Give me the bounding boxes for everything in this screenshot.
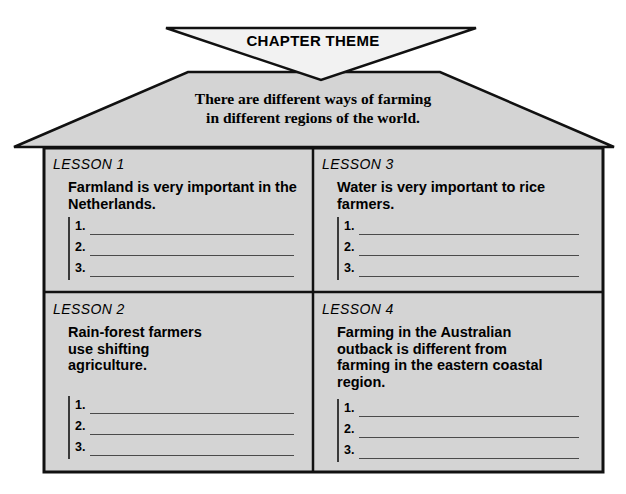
answer-line-row[interactable]: 1.	[339, 399, 579, 420]
answer-number: 2.	[344, 240, 354, 254]
lesson-panel-1: LESSON 1 Farmland is very important in t…	[44, 148, 312, 292]
answer-number: 1.	[344, 401, 354, 415]
answer-number: 1.	[344, 219, 354, 233]
answer-rule[interactable]	[90, 255, 294, 256]
answer-line-row[interactable]: 1.	[70, 396, 294, 417]
answer-line-row[interactable]: 3.	[70, 259, 294, 280]
answer-line-row[interactable]: 3.	[339, 259, 579, 280]
answer-number: 2.	[344, 422, 354, 436]
answer-line-row[interactable]: 1.	[70, 217, 294, 238]
answer-rule[interactable]	[90, 234, 294, 235]
lesson-answer-lines-1: 1. 2. 3.	[68, 217, 294, 280]
answer-number: 3.	[75, 440, 85, 454]
answer-line-row[interactable]: 2.	[70, 238, 294, 259]
lesson-title-1: Farmland is very important in the Nether…	[44, 172, 312, 212]
answer-line-row[interactable]: 1.	[339, 217, 579, 238]
answer-number: 3.	[344, 443, 354, 457]
lesson-label-3: LESSON 3	[313, 148, 603, 172]
theme-line-1: There are different ways of farming	[0, 89, 626, 108]
answer-number: 2.	[75, 240, 85, 254]
answer-line-row[interactable]: 2.	[339, 420, 579, 441]
answer-number: 1.	[75, 219, 85, 233]
lesson-panel-4: LESSON 4 Farming in the Australian outba…	[313, 293, 603, 472]
answer-rule[interactable]	[359, 416, 579, 417]
lesson-title-2: Rain-forest farmers use shifting agricul…	[44, 317, 238, 374]
lesson-panel-3: LESSON 3 Water is very important to rice…	[313, 148, 603, 292]
answer-rule[interactable]	[359, 437, 579, 438]
chapter-theme-graphic-organizer: CHAPTER THEME There are different ways o…	[0, 0, 626, 494]
answer-rule[interactable]	[359, 234, 579, 235]
answer-rule[interactable]	[359, 458, 579, 459]
lesson-label-4: LESSON 4	[313, 293, 603, 317]
lesson-title-3: Water is very important to rice farmers.	[313, 172, 603, 212]
banner-title: CHAPTER THEME	[0, 32, 626, 49]
answer-rule[interactable]	[359, 276, 579, 277]
lesson-label-1: LESSON 1	[44, 148, 312, 172]
answer-number: 2.	[75, 419, 85, 433]
answer-rule[interactable]	[359, 255, 579, 256]
answer-line-row[interactable]: 2.	[70, 417, 294, 438]
lesson-answer-lines-4: 1. 2. 3.	[337, 399, 579, 462]
answer-line-row[interactable]: 2.	[339, 238, 579, 259]
lesson-answer-lines-2: 1. 2. 3.	[68, 396, 294, 459]
lesson-panel-2: LESSON 2 Rain-forest farmers use shiftin…	[44, 293, 312, 472]
lesson-answer-lines-3: 1. 2. 3.	[337, 217, 579, 280]
answer-rule[interactable]	[90, 455, 294, 456]
answer-line-row[interactable]: 3.	[70, 438, 294, 459]
answer-line-row[interactable]: 3.	[339, 441, 579, 462]
chapter-theme-statement: There are different ways of farming in d…	[0, 89, 626, 127]
theme-line-2: in different regions of the world.	[0, 108, 626, 127]
answer-number: 3.	[344, 261, 354, 275]
answer-number: 1.	[75, 398, 85, 412]
answer-number: 3.	[75, 261, 85, 275]
lesson-label-2: LESSON 2	[44, 293, 312, 317]
answer-rule[interactable]	[90, 276, 294, 277]
lesson-title-4: Farming in the Australian outback is dif…	[313, 317, 559, 390]
answer-rule[interactable]	[90, 413, 294, 414]
answer-rule[interactable]	[90, 434, 294, 435]
